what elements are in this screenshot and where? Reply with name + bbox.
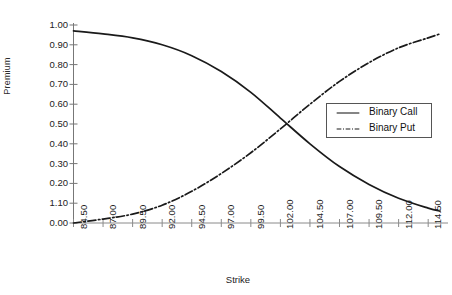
plot-area xyxy=(0,0,452,295)
legend-label-binary-call: Binary Call xyxy=(369,106,417,117)
legend-item-binary-put: Binary Put xyxy=(331,121,429,137)
legend-line-solid-icon xyxy=(331,112,365,114)
legend-label-binary-put: Binary Put xyxy=(369,122,415,133)
chart-figure: Premium 1.000.900.800.700.600.500.400.30… xyxy=(0,0,452,295)
legend: Binary Call Binary Put xyxy=(326,103,432,138)
legend-line-dashdot-icon xyxy=(331,128,365,130)
legend-item-binary-call: Binary Call xyxy=(331,105,429,121)
